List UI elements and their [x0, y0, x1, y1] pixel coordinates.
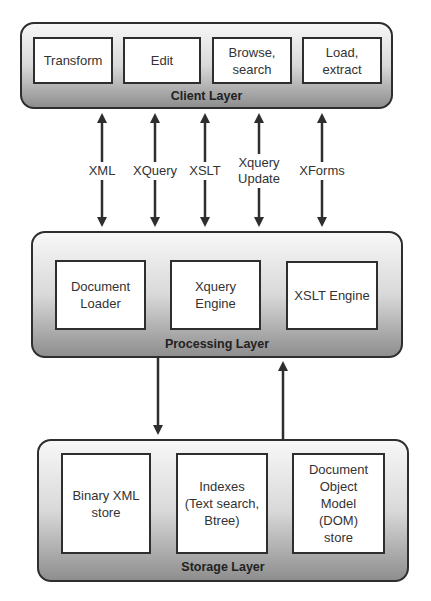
- interface-label-xquery-update: Xquery Update: [238, 154, 280, 188]
- interface-label-xquery: XQuery: [133, 162, 177, 180]
- processing-component-xquery-engine: Xquery Engine: [170, 260, 261, 330]
- storage-component-indexes: Indexes (Text search, Btree): [176, 453, 268, 554]
- interface-label-xforms: XForms: [299, 162, 345, 180]
- client-component-edit: Edit: [123, 37, 201, 84]
- client-component-transform: Transform: [33, 37, 113, 84]
- client-component-load-extract: Load, extract: [302, 37, 382, 84]
- processing-component-document-loader: Document Loader: [55, 260, 146, 330]
- processing-component-xslt-engine: XSLT Engine: [286, 261, 378, 330]
- storage-component-binary-xml-store: Binary XML store: [61, 453, 151, 554]
- interface-label-xslt: XSLT: [189, 162, 221, 180]
- storage-component-dom-store: Document Object Model (DOM) store: [292, 453, 385, 554]
- client-layer-title: Client Layer: [22, 89, 391, 103]
- storage-layer-title: Storage Layer: [39, 560, 407, 574]
- client-component-browse-search: Browse, search: [212, 37, 292, 84]
- processing-layer-title: Processing Layer: [33, 337, 401, 351]
- interface-label-xml: XML: [89, 162, 116, 180]
